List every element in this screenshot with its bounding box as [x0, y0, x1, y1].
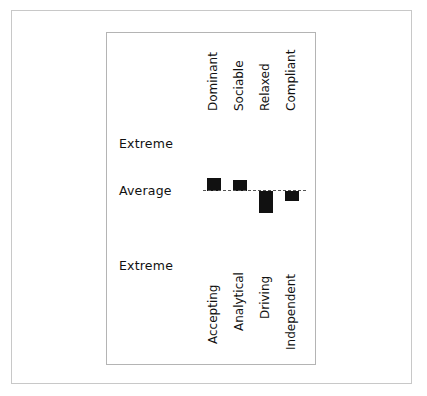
- average-baseline: [203, 190, 306, 191]
- top-label-relaxed: Relaxed: [258, 63, 272, 111]
- bottom-extreme-label: Extreme: [119, 258, 173, 273]
- bar-compliant: [285, 191, 299, 201]
- top-label-sociable: Sociable: [232, 60, 246, 111]
- bottom-label-analytical: Analytical: [232, 272, 246, 331]
- bottom-label-accepting: Accepting: [206, 285, 220, 344]
- top-extreme-label: Extreme: [119, 136, 173, 151]
- bar-relaxed: [259, 191, 273, 213]
- bottom-label-driving: Driving: [258, 276, 272, 319]
- bottom-label-independent: Independent: [284, 274, 298, 350]
- top-label-dominant: Dominant: [206, 52, 220, 111]
- top-label-compliant: Compliant: [284, 50, 298, 111]
- average-label: Average: [119, 183, 172, 198]
